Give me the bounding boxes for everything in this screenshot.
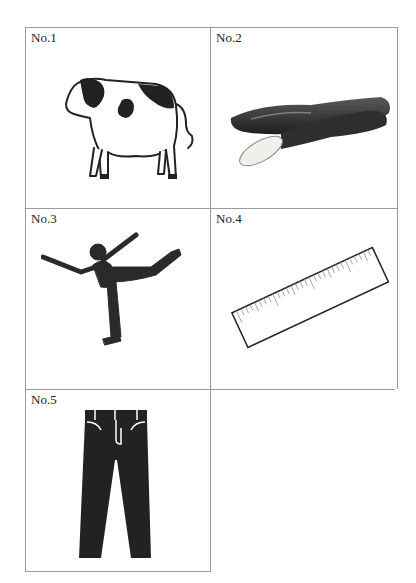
jeans-icon: [71, 408, 161, 563]
cell-empty: [210, 389, 395, 572]
cell-no5: No.5: [25, 389, 210, 572]
cell-no1: No.1: [25, 27, 210, 208]
grid-row-3: No.5: [25, 389, 398, 572]
grid-row-2: No.3 No.4: [25, 208, 398, 389]
grid-row-1: No.1 No.2: [25, 27, 398, 208]
cell-no3: No.3: [25, 208, 210, 389]
cell-no4: No.4: [210, 208, 398, 389]
cell-label: No.5: [31, 392, 57, 408]
cell-no2: No.2: [210, 27, 398, 208]
cow-icon: [46, 66, 196, 191]
cell-label: No.4: [216, 211, 242, 227]
cell-label: No.1: [31, 30, 57, 46]
ruler-icon: [221, 234, 396, 354]
picture-grid: No.1 No.2: [25, 27, 398, 572]
cell-label: No.2: [216, 30, 242, 46]
cell-label: No.3: [31, 211, 57, 227]
figure-skater-icon: [41, 227, 201, 352]
cucumber-icon: [221, 93, 396, 173]
